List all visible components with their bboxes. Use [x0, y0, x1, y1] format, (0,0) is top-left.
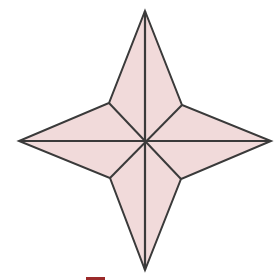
star-diagram [0, 0, 275, 280]
